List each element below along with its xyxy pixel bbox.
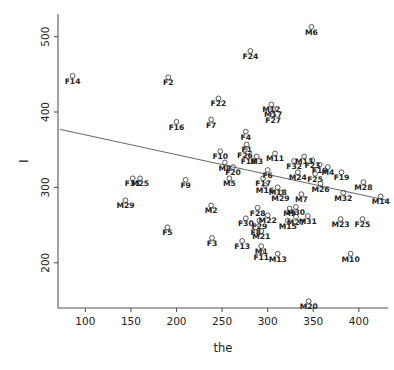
data-point-label: M15 (279, 222, 297, 231)
plot-canvas: F14M6F24F2F22M12M17F27F16F7F4F1F26F10F18… (0, 0, 394, 370)
x-tick-label: 250 (212, 315, 232, 327)
data-point-label: M29 (116, 201, 134, 210)
data-point-label: F4 (241, 133, 251, 142)
x-tick-label: 200 (166, 315, 186, 327)
data-point-label: M28 (354, 183, 372, 192)
data-point-label: F7 (206, 121, 216, 130)
data-point-label: M13 (269, 255, 287, 264)
data-point-label: M11 (266, 154, 284, 163)
data-point-label: M26 (311, 185, 329, 194)
data-point-label: F19 (334, 173, 350, 182)
data-point-label: M14 (372, 197, 390, 206)
scatter-plot-figure: F14M6F24F2F22M12M17F27F16F7F4F1F26F10F18… (0, 0, 394, 370)
data-point-label: F14 (65, 77, 81, 86)
x-tick-label: 150 (121, 315, 141, 327)
data-point-label: M24 (289, 173, 307, 182)
data-point-label: F13 (234, 242, 250, 251)
y-tick-label: 400 (39, 102, 51, 122)
data-point-label: M2 (205, 206, 218, 215)
x-tick-label: 300 (258, 315, 278, 327)
data-point-label: F3 (207, 239, 217, 248)
data-point-label: F25 (307, 175, 323, 184)
data-point-label: F2 (163, 78, 173, 87)
data-point-label: F20 (225, 168, 241, 177)
x-axis-title: the (214, 341, 233, 355)
data-point-label: M21 (252, 232, 270, 241)
data-point-label: M29 (271, 194, 289, 203)
data-point-label: F5 (162, 228, 172, 237)
x-tick-label: 350 (303, 315, 323, 327)
y-tick-label: 200 (39, 253, 51, 273)
data-point-label: F9 (180, 181, 190, 190)
y-axis-title: I (17, 159, 31, 162)
data-point-label: M6 (305, 28, 318, 37)
y-tick-label: 500 (39, 27, 51, 47)
data-point-label: M32 (334, 194, 352, 203)
x-tick-label: 400 (349, 315, 369, 327)
data-points: F14M6F24F2F22M12M17F27F16F7F4F1F26F10F18… (65, 24, 390, 311)
x-tick-label: 100 (75, 315, 95, 327)
y-tick-label: 300 (39, 177, 51, 197)
data-point-label: F24 (242, 52, 258, 61)
data-point-label: F27 (265, 116, 281, 125)
data-point-label: M7 (295, 195, 308, 204)
data-point-label: F22 (211, 99, 227, 108)
data-point-label: F11 (253, 253, 269, 262)
data-point-label: F16 (169, 123, 185, 132)
data-point-label: M13 (295, 157, 313, 166)
data-point-label: M25 (131, 179, 149, 188)
data-point-label: M23 (332, 220, 350, 229)
data-point-label: M3 (250, 157, 263, 166)
data-point-label: M20 (300, 302, 318, 311)
data-point-label: M4 (321, 168, 334, 177)
data-point-label: M10 (342, 255, 360, 264)
data-point-label: F25 (355, 220, 371, 229)
data-point-label: M5 (223, 179, 236, 188)
